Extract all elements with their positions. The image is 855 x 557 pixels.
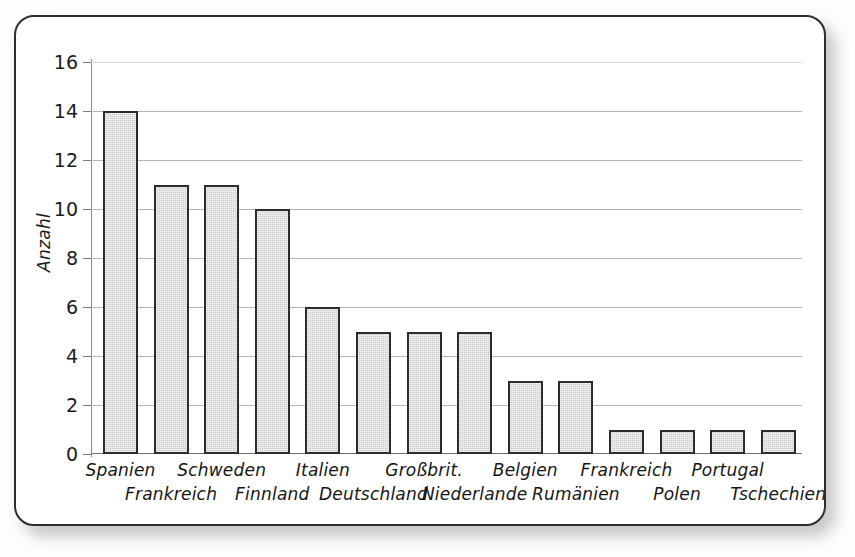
- x-axis-line: [91, 453, 802, 454]
- y-axis-title: Anzahl: [34, 213, 54, 272]
- x-axis-label: Belgien: [493, 460, 558, 480]
- x-axis-label: Italien: [296, 460, 350, 480]
- y-axis-tick-label: 8: [66, 247, 78, 269]
- gridline: [91, 209, 802, 210]
- y-axis-tick: [83, 258, 91, 259]
- y-axis-tick-label: 6: [66, 296, 78, 318]
- bar[interactable]: [660, 430, 695, 455]
- x-axis-label: Tschechien: [730, 484, 826, 504]
- y-axis-tick-label: 16: [54, 51, 78, 73]
- y-axis-tick-label: 10: [54, 198, 78, 220]
- y-axis-tick: [83, 209, 91, 210]
- y-axis-tick-label: 14: [54, 100, 78, 122]
- bar[interactable]: [710, 430, 745, 455]
- y-axis-tick: [83, 307, 91, 308]
- x-axis-label: Polen: [653, 484, 701, 504]
- bar[interactable]: [103, 111, 138, 454]
- y-axis-tick: [83, 111, 91, 112]
- bar[interactable]: [558, 381, 593, 455]
- plot-area: 0246810121416: [91, 62, 802, 454]
- y-axis-tick-label: 2: [66, 394, 78, 416]
- bar[interactable]: [508, 381, 543, 455]
- gridline: [91, 160, 802, 161]
- bar[interactable]: [154, 185, 189, 455]
- y-axis-tick-label: 4: [66, 345, 78, 367]
- bar[interactable]: [305, 307, 340, 454]
- bar[interactable]: [204, 185, 239, 455]
- x-axis-label: Deutschland: [319, 484, 428, 504]
- bar[interactable]: [609, 430, 644, 455]
- x-axis-label: Portugal: [691, 460, 764, 480]
- gridline: [91, 307, 802, 308]
- gridline: [91, 356, 802, 357]
- x-axis-label: Frankreich: [125, 484, 217, 504]
- x-axis-label: Frankreich: [580, 460, 672, 480]
- bar[interactable]: [255, 209, 290, 454]
- x-axis-label: Großbrit.: [385, 460, 463, 480]
- y-axis-tick: [83, 405, 91, 406]
- y-axis-tick-label: 0: [66, 443, 78, 465]
- x-axis-label: Rumänien: [532, 484, 620, 504]
- gridline: [91, 258, 802, 259]
- y-axis-tick: [83, 160, 91, 161]
- bar[interactable]: [761, 430, 796, 455]
- gridline: [91, 405, 802, 406]
- y-axis-tick: [83, 454, 91, 455]
- bar[interactable]: [356, 332, 391, 455]
- x-axis-label: Niederlande: [422, 484, 528, 504]
- y-axis-tick: [83, 62, 91, 63]
- y-axis-tick-label: 12: [54, 149, 78, 171]
- gridline: [91, 111, 802, 112]
- chart-page: 0246810121416 Anzahl SpanienFrankreichSc…: [0, 0, 855, 557]
- bar[interactable]: [407, 332, 442, 455]
- x-axis-label: Spanien: [85, 460, 155, 480]
- x-axis-label: Schweden: [177, 460, 266, 480]
- chart-frame: 0246810121416 Anzahl SpanienFrankreichSc…: [14, 15, 826, 526]
- y-axis-tick: [83, 356, 91, 357]
- bar[interactable]: [457, 332, 492, 455]
- x-axis-label: Finnland: [235, 484, 309, 504]
- gridline: [91, 62, 802, 63]
